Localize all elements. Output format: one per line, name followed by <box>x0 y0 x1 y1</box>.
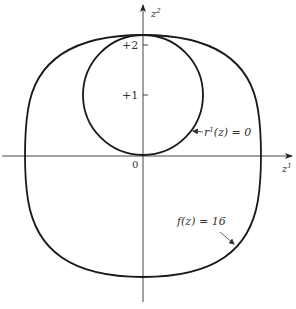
vertical-axis-label: z2 <box>150 7 161 19</box>
origin-label: 0 <box>132 159 138 170</box>
inner-circle-label-arrow <box>193 131 203 132</box>
tick-label-plus-2: +2 <box>122 39 138 52</box>
outer-curve-label: f(z) = 16 <box>176 215 226 228</box>
tick-label-plus-1: +1 <box>122 89 138 102</box>
outer-curve-label-arrow <box>220 232 234 244</box>
horizontal-axis-label: z1 <box>281 162 292 174</box>
inner-circle-label: r1(z) = 0 <box>204 126 251 139</box>
level-set-diagram: z2 z1 +2 +1 0 r1(z) = 0 f(z) = 16 <box>0 0 296 309</box>
